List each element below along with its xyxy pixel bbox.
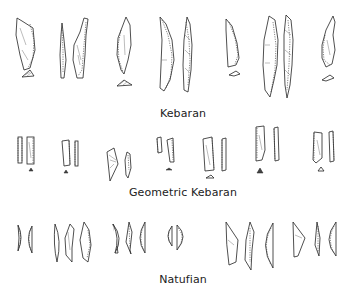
- group-label-natufian: Natufian: [159, 273, 207, 286]
- gk-rectangle-2: [62, 140, 78, 173]
- natufian-lunates-2: [54, 222, 91, 262]
- microlith-figure: [0, 0, 355, 286]
- kebaran-bladelet-7: [263, 15, 293, 98]
- kebaran-bladelet-1: [16, 18, 35, 77]
- kebaran-bladelet-4: [160, 17, 174, 91]
- gk-rectangle-1: [18, 137, 34, 171]
- natufian-artifacts: [18, 222, 336, 270]
- geometric-kebaran-artifacts: [18, 126, 334, 181]
- natufian-lunates-3: [113, 222, 145, 254]
- kebaran-bladelet-8: [322, 16, 335, 81]
- gk-triangle: [107, 148, 131, 181]
- gk-rectangle-4: [203, 137, 226, 178]
- kebaran-bladelet-6: [226, 19, 240, 76]
- natufian-lunates-1: [18, 225, 32, 253]
- group-label-geometric-kebaran: Geometric Kebaran: [129, 186, 237, 199]
- gk-rectangle-3: [157, 137, 174, 170]
- group-label-kebaran: Kebaran: [160, 107, 206, 120]
- kebaran-bladelet-3: [117, 17, 132, 86]
- kebaran-bladelet-5: [183, 17, 192, 92]
- gk-rectangle-6: [313, 131, 334, 171]
- natufian-lunates-5: [226, 222, 273, 270]
- natufian-lunates-4: [168, 225, 183, 250]
- kebaran-bladelet-2: [60, 18, 88, 78]
- kebaran-artifacts: [16, 15, 335, 98]
- gk-rectangle-5: [256, 126, 279, 173]
- natufian-lunates-6: [293, 222, 336, 257]
